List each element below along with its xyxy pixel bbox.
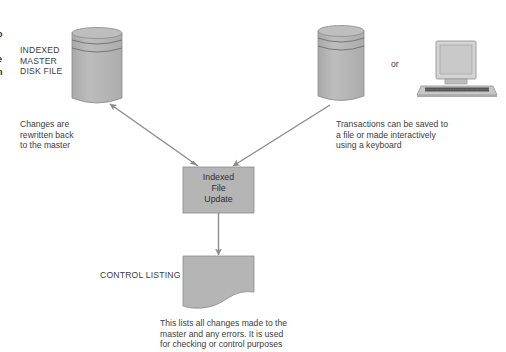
process-label: Indexed File Update: [183, 172, 254, 204]
process-label-line: Update: [183, 194, 254, 205]
transaction-note: Transactions can be saved to a file or m…: [336, 119, 448, 151]
process-label-line: File: [183, 183, 254, 194]
transaction-note-line: Transactions can be saved to: [336, 119, 448, 130]
master-note: Changes are rewritten back to the master: [20, 119, 74, 151]
control-listing-label: CONTROL LISTING: [100, 270, 181, 281]
transaction-file-cylinder-icon: [318, 26, 364, 101]
master-note-line: rewritten back: [20, 130, 74, 141]
process-label-line: Indexed: [183, 172, 254, 183]
transaction-note-line: using a keyboard: [336, 140, 448, 151]
arrow-transaction-process: [233, 105, 330, 166]
diagram-canvas: o t e n -: [0, 0, 506, 352]
master-note-line: to the master: [20, 140, 74, 151]
master-note-line: Changes are: [20, 119, 74, 130]
master-file-label: INDEXED MASTER DISK FILE: [20, 45, 62, 77]
master-file-label-line: DISK FILE: [20, 66, 62, 77]
report-note-line: This lists all changes made to the: [160, 318, 287, 329]
master-file-label-line: MASTER: [20, 56, 62, 67]
arrow-process-master: [110, 104, 198, 166]
report-note: This lists all changes made to the maste…: [160, 318, 287, 350]
master-disk-cylinder-icon: [72, 28, 122, 104]
control-listing-document-icon: [183, 256, 254, 308]
report-note-line: for checking or control purposes: [160, 339, 287, 350]
or-label: or: [391, 59, 399, 70]
computer-terminal-icon: [417, 41, 497, 97]
report-note-line: master and any errors. It is used: [160, 329, 287, 340]
master-file-label-line: INDEXED: [20, 45, 62, 56]
transaction-note-line: a file or made interactively: [336, 130, 448, 141]
